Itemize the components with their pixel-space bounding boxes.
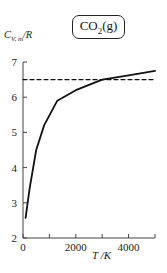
y-tick-label: 2 xyxy=(12,232,18,244)
heat-capacity-chart: CV, m/R 234567020004000 T /K xyxy=(0,0,167,273)
x-tick-label: 4000 xyxy=(118,241,141,253)
data-series xyxy=(23,71,155,218)
y-tick-label: 4 xyxy=(12,162,18,174)
y-axis-label: CV, m/R xyxy=(4,29,33,43)
axes: 234567020004000 xyxy=(12,56,156,253)
x-tick-label: 0 xyxy=(20,241,26,253)
x-tick-label: 2000 xyxy=(65,241,88,253)
heat-capacity-curve xyxy=(26,71,155,218)
y-tick-label: 7 xyxy=(12,56,18,68)
x-axis-label: T /K xyxy=(92,249,112,261)
y-tick-label: 6 xyxy=(12,91,18,103)
y-tick-label: 5 xyxy=(12,126,18,138)
y-tick-label: 3 xyxy=(12,197,18,209)
